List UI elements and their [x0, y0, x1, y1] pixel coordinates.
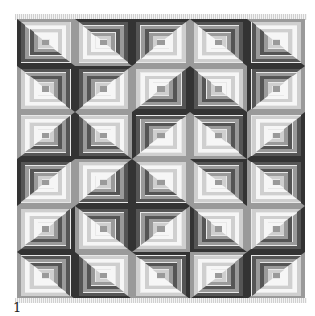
log-cabin-block: [17, 19, 75, 66]
log-cabin-block: [190, 206, 248, 253]
log-cabin-block: [190, 19, 248, 66]
block-center: [42, 180, 49, 185]
log-cabin-block: [17, 66, 75, 113]
log-cabin-block: [247, 112, 305, 159]
log-cabin-block: [190, 66, 248, 113]
needlepoint-sampler: [17, 19, 305, 299]
log-cabin-block: [247, 159, 305, 206]
block-center: [273, 273, 280, 278]
figure-label: 1: [13, 300, 21, 315]
block-center: [42, 40, 49, 45]
log-cabin-block: [190, 252, 248, 299]
log-cabin-block: [17, 112, 75, 159]
log-cabin-block: [132, 252, 190, 299]
block-center: [100, 226, 107, 231]
block-center: [157, 180, 164, 185]
log-cabin-block: [75, 206, 133, 253]
block-center: [215, 273, 222, 278]
log-cabin-block: [132, 66, 190, 113]
block-center: [157, 133, 164, 138]
block-center: [215, 86, 222, 91]
log-cabin-block: [132, 159, 190, 206]
block-center: [100, 86, 107, 91]
log-cabin-block: [75, 112, 133, 159]
block-center: [215, 226, 222, 231]
log-cabin-block: [190, 159, 248, 206]
block-center: [273, 180, 280, 185]
block-center: [273, 226, 280, 231]
log-cabin-block: [132, 19, 190, 66]
block-center: [100, 180, 107, 185]
bottom-fringe: [15, 298, 307, 303]
block-center: [273, 40, 280, 45]
block-center: [215, 133, 222, 138]
block-center: [157, 226, 164, 231]
log-cabin-block: [75, 252, 133, 299]
log-cabin-block: [247, 19, 305, 66]
log-cabin-block: [17, 159, 75, 206]
block-center: [273, 133, 280, 138]
log-cabin-grid: [17, 19, 305, 299]
log-cabin-block: [132, 206, 190, 253]
block-center: [215, 180, 222, 185]
block-center: [157, 40, 164, 45]
log-cabin-block: [247, 66, 305, 113]
block-center: [42, 226, 49, 231]
block-center: [100, 133, 107, 138]
log-cabin-block: [75, 66, 133, 113]
log-cabin-block: [75, 19, 133, 66]
block-center: [42, 273, 49, 278]
log-cabin-block: [247, 206, 305, 253]
block-center: [42, 133, 49, 138]
block-center: [157, 273, 164, 278]
log-cabin-block: [190, 112, 248, 159]
block-center: [215, 40, 222, 45]
log-cabin-block: [17, 206, 75, 253]
log-cabin-block: [132, 112, 190, 159]
block-center: [273, 86, 280, 91]
block-center: [100, 273, 107, 278]
log-cabin-block: [17, 252, 75, 299]
block-center: [42, 86, 49, 91]
log-cabin-block: [247, 252, 305, 299]
log-cabin-block: [75, 159, 133, 206]
block-center: [157, 86, 164, 91]
block-center: [100, 40, 107, 45]
